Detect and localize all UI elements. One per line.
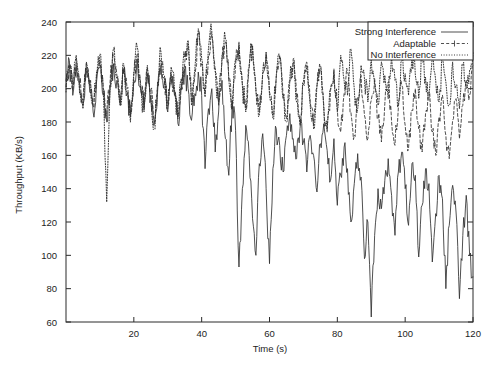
throughput-line-chart: 20406080100120 6080100120140160180200220… xyxy=(0,0,496,367)
legend-label: Adaptable xyxy=(393,38,436,49)
y-tick-label: 200 xyxy=(41,83,57,94)
chart-legend: Strong InterferenceAdaptableNo Interfere… xyxy=(355,22,473,60)
y-axis-title: Throughput (KB/s) xyxy=(13,136,24,214)
y-tick-label: 220 xyxy=(41,50,57,61)
x-axis-title: Time (s) xyxy=(253,343,287,354)
x-tick-label: 100 xyxy=(397,328,413,339)
legend-label: Strong Interference xyxy=(355,26,436,37)
y-tick-label: 80 xyxy=(46,283,57,294)
y-tick-label: 180 xyxy=(41,117,57,128)
chart-figure: 20406080100120 6080100120140160180200220… xyxy=(0,0,496,367)
y-tick-label: 240 xyxy=(41,17,57,28)
x-tick-label: 40 xyxy=(196,328,207,339)
x-tick-label: 80 xyxy=(332,328,343,339)
y-tick-label: 160 xyxy=(41,150,57,161)
y-tick-label: 60 xyxy=(46,317,57,328)
legend-label: No Interference xyxy=(371,49,436,60)
y-tick-label: 100 xyxy=(41,250,57,261)
y-tick-label: 140 xyxy=(41,183,57,194)
x-tick-label: 120 xyxy=(465,328,481,339)
y-tick-label: 120 xyxy=(41,217,57,228)
x-tick-label: 60 xyxy=(264,328,275,339)
x-tick-label: 20 xyxy=(129,328,140,339)
